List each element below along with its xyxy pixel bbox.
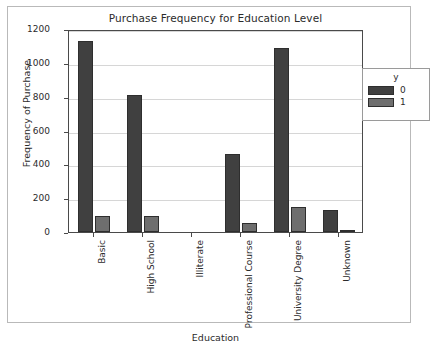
x-tick-label: Illiterate — [195, 240, 205, 278]
x-tick-mark — [338, 233, 339, 237]
x-tick-label: University Degree — [293, 240, 303, 321]
bar-university-degree-series-0 — [274, 48, 289, 232]
legend-swatch-0 — [368, 86, 394, 95]
y-tick-label: 600 — [10, 126, 50, 136]
y-tick-mark — [64, 233, 68, 234]
y-tick-label: 800 — [10, 92, 50, 102]
x-tick-mark — [240, 233, 241, 237]
x-tick-mark — [289, 233, 290, 237]
y-axis-label: Frequency of Purchase — [21, 24, 32, 204]
y-tick-label: 1000 — [10, 58, 50, 68]
legend-swatch-1 — [368, 98, 394, 107]
bar-unknown-series-0 — [323, 210, 338, 232]
bar-university-degree-series-1 — [291, 207, 306, 232]
legend-label: 0 — [400, 85, 406, 95]
plot-area: y 01 — [68, 30, 363, 233]
x-axis-label: Education — [68, 332, 363, 343]
bar-professional-course-series-1 — [242, 223, 257, 232]
bar-basic-series-1 — [95, 216, 110, 232]
bar-high-school-series-1 — [144, 216, 159, 232]
bar-professional-course-series-0 — [225, 154, 240, 232]
x-tick-mark — [191, 233, 192, 237]
legend-label: 1 — [400, 97, 406, 107]
bar-high-school-series-0 — [127, 95, 142, 232]
x-tick-label: Professional Course — [244, 240, 254, 328]
x-tick-label: Unknown — [342, 240, 352, 282]
legend-entry-1: 1 — [368, 97, 424, 107]
chart-title: Purchase Frequency for Education Level — [68, 12, 363, 24]
y-tick-label: 400 — [10, 159, 50, 169]
legend-entries: 01 — [368, 85, 424, 107]
legend-title: y — [368, 72, 424, 83]
y-tick-label: 0 — [10, 227, 50, 237]
x-tick-mark — [142, 233, 143, 237]
y-tick-label: 1200 — [10, 24, 50, 34]
bars-layer — [69, 31, 362, 232]
x-tick-mark — [93, 233, 94, 237]
x-tick-label: High School — [146, 240, 156, 293]
legend-entry-0: 0 — [368, 85, 424, 95]
bar-unknown-series-1 — [340, 230, 355, 232]
y-tick-label: 200 — [10, 193, 50, 203]
bar-basic-series-0 — [78, 41, 93, 232]
x-tick-label: Basic — [97, 240, 107, 264]
legend: y 01 — [362, 68, 430, 121]
